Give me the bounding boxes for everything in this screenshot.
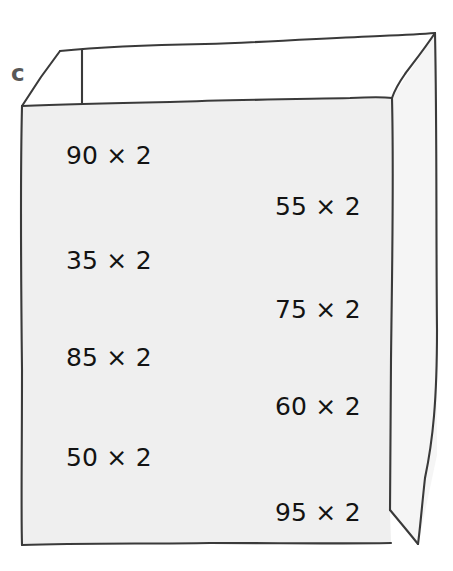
expression-item[interactable]: 95 × 2 [275,500,361,525]
expression-item[interactable]: 85 × 2 [66,345,152,370]
expression-text: 60 × 2 [275,392,361,421]
expression-text: 55 × 2 [275,192,361,221]
expression-item[interactable]: 90 × 2 [66,143,152,168]
expression-text: 75 × 2 [275,295,361,324]
expression-layer: 90 × 2 55 × 2 35 × 2 75 × 2 85 × 2 60 × … [0,0,453,571]
expression-item[interactable]: 60 × 2 [275,394,361,419]
expression-item[interactable]: 75 × 2 [275,297,361,322]
expression-text: 50 × 2 [66,443,152,472]
expression-item[interactable]: 55 × 2 [275,194,361,219]
expression-text: 35 × 2 [66,246,152,275]
worksheet-canvas: c 90 × 2 55 × 2 35 × 2 75 × 2 85 × 2 60 … [0,0,453,571]
expression-text: 85 × 2 [66,343,152,372]
expression-item[interactable]: 50 × 2 [66,445,152,470]
expression-text: 95 × 2 [275,498,361,527]
expression-item[interactable]: 35 × 2 [66,248,152,273]
expression-text: 90 × 2 [66,141,152,170]
